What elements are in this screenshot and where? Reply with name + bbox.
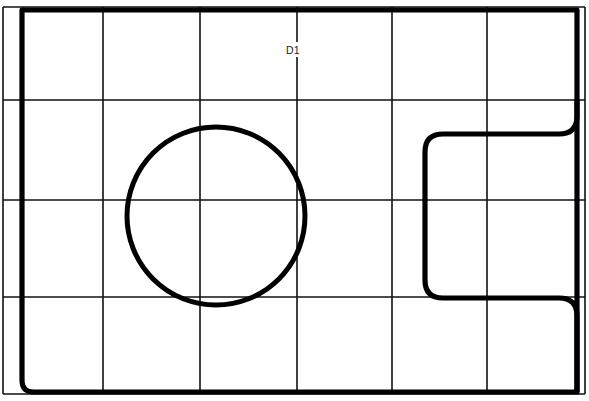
label-d1: D1 — [286, 44, 300, 56]
technical-drawing-svg: D1 — [0, 0, 589, 401]
technical-drawing-canvas: D1 — [0, 0, 589, 401]
label-d1-group: D1 — [282, 42, 305, 57]
